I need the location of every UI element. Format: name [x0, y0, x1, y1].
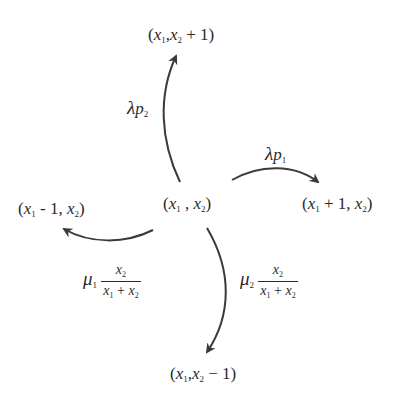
arrow-left [64, 229, 153, 240]
rate-label-left: μ1 x2 x1 + x2 [83, 263, 141, 300]
fraction-down: x2 x1 + x2 [258, 263, 297, 300]
state-down: (x1,x2 − 1) [170, 365, 236, 384]
rate-label-down: μ2 x2 x1 + x2 [240, 263, 298, 300]
state-right: (x1 + 1, x2) [302, 195, 373, 214]
state-left: (x1 - 1, x2) [18, 200, 85, 219]
state-center: (x1 , x2) [163, 195, 211, 214]
rate-label-up: λp2 [127, 98, 148, 119]
state-up: (x1,x2 + 1) [148, 26, 214, 45]
arrow-up [164, 56, 180, 182]
arrow-down [207, 228, 226, 352]
arrow-right [232, 168, 318, 182]
rate-label-right: λp1 [265, 144, 286, 165]
fraction-left: x2 x1 + x2 [101, 263, 140, 300]
